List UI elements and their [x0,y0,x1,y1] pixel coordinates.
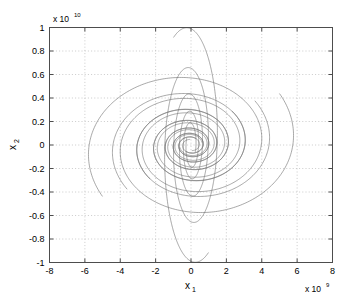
y-tick-label: 0.6 [32,70,45,80]
x-tick-label: 6 [295,266,300,276]
y-axis-label-base: x [7,145,18,150]
y-tick-label: -0.6 [29,211,45,221]
figure-phase-portrait: -8-6-4-202468 -1-0.8-0.6-0.4-0.200.20.40… [0,0,355,305]
x-axis-label-subscript: 1 [192,286,196,293]
y-tick-label: -0.2 [29,164,45,174]
x-tick-label: -6 [81,266,89,276]
y-tick-label: 0.4 [32,93,45,103]
figure-background [0,0,355,305]
y-tick-label: -1 [36,258,44,268]
y-axis-label-subscript: 2 [13,139,20,143]
y-tick-label: 0 [39,140,44,150]
x-tick-label: 4 [259,266,264,276]
y-tick-label: -0.4 [29,187,45,197]
x-tick-label: 8 [330,266,335,276]
x-tick-label: -4 [116,266,124,276]
y-exponent-power: 10 [74,12,81,18]
x-tick-label: -2 [152,266,160,276]
y-tick-label: 0.8 [32,46,45,56]
y-tick-label: 1 [39,23,44,33]
x-tick-label: -8 [45,266,53,276]
y-tick-label: 0.2 [32,117,45,127]
phase-portrait-plot: -8-6-4-202468 -1-0.8-0.6-0.4-0.200.20.40… [0,0,355,305]
x-tick-label: 0 [188,266,193,276]
y-tick-label: -0.8 [29,234,45,244]
y-exponent-prefix: x 10 [53,14,69,24]
x-axis-label-base: x [185,280,190,291]
x-tick-label: 2 [224,266,229,276]
x-exponent-prefix: x 10 [305,284,321,294]
